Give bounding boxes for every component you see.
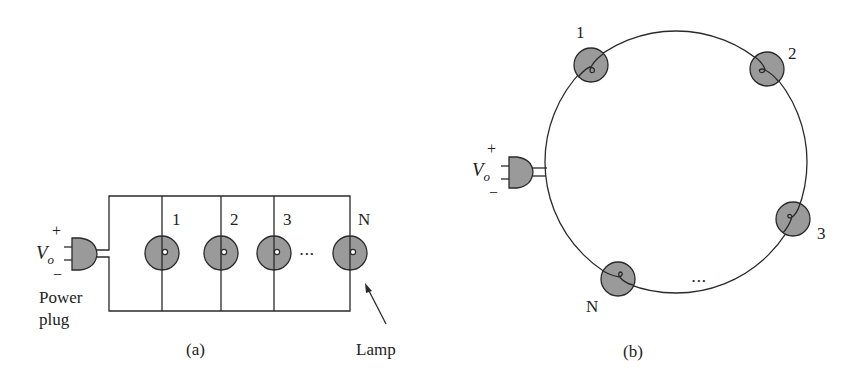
source-voltage-a: Vo (36, 242, 55, 267)
power-plug-b (501, 157, 547, 188)
lamp-b-n (601, 262, 635, 296)
ellipsis-b: ••• (692, 276, 707, 286)
lamp-a-3 (257, 236, 291, 270)
power-plug-label-line2: plug (39, 310, 70, 329)
lamp-callout-label: Lamp (356, 340, 396, 359)
lamp-callout-arrow (365, 283, 386, 324)
lamp-b-1 (574, 48, 608, 82)
diagram-b-ring: + Vo − 1 2 3 N ••• (b) (472, 23, 826, 361)
caption-a: (a) (186, 340, 205, 359)
lamp-b-label-1: 1 (576, 23, 585, 42)
lamp-a-label-1: 1 (172, 210, 181, 229)
power-plug-label-line1: Power (39, 288, 83, 307)
plug-body (72, 238, 97, 270)
minus-sign-b: − (489, 184, 498, 201)
lamp-a-2 (204, 236, 238, 270)
lamp-b-label-3: 3 (817, 224, 826, 243)
lamp-a-1 (145, 236, 179, 270)
lamp-a-label-n: N (358, 210, 370, 229)
diagram-a-parallel: + Vo − Power plug 1 2 3 N ••• Lamp (a) (36, 196, 396, 359)
lamp-a-label-3: 3 (283, 210, 292, 229)
lamp-b-label-n: N (586, 297, 598, 316)
caption-b: (b) (623, 342, 643, 361)
lamp-a-n (333, 236, 367, 270)
lamp-wiring-figure: + Vo − Power plug 1 2 3 N ••• Lamp (a) (0, 0, 856, 377)
plus-sign-b: + (487, 140, 496, 157)
minus-sign-a: − (53, 266, 62, 283)
ellipsis-a: ••• (300, 249, 315, 259)
plus-sign-a: + (52, 222, 61, 239)
source-voltage-b: Vo (472, 159, 491, 184)
lamp-b-3 (776, 202, 810, 236)
lamp-b-label-2: 2 (788, 44, 797, 63)
power-plug-a (64, 238, 97, 270)
lamp-a-label-2: 2 (230, 210, 239, 229)
lamp-b-2 (750, 52, 784, 86)
